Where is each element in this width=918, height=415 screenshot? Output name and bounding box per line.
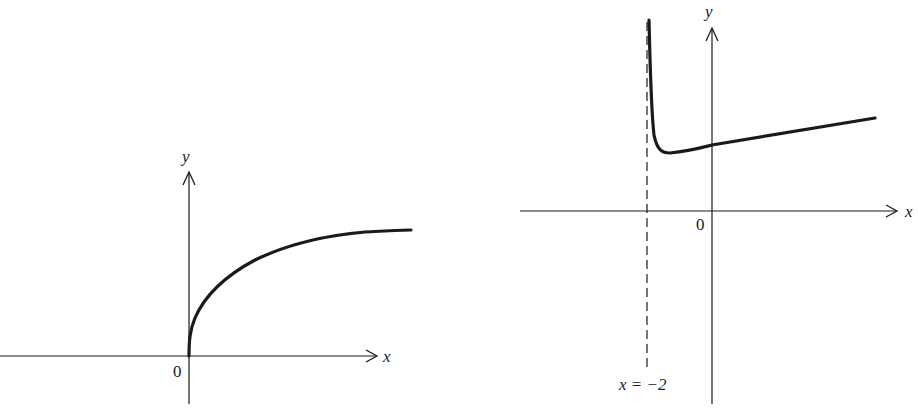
right-x-label: x xyxy=(904,202,913,221)
left-y-label: y xyxy=(180,147,190,166)
right-origin-label: 0 xyxy=(696,215,705,234)
right-graph: y x 0 x = −2 xyxy=(520,2,913,404)
left-origin-label: 0 xyxy=(173,362,182,381)
left-x-label: x xyxy=(382,347,391,366)
asymptote-label: x = −2 xyxy=(618,375,667,394)
left-graph: y x 0 xyxy=(0,147,411,404)
figure-canvas: y x 0 y x 0 x = −2 xyxy=(0,0,918,415)
left-curve xyxy=(189,230,411,356)
right-y-label: y xyxy=(703,2,713,21)
right-curve xyxy=(649,20,875,153)
